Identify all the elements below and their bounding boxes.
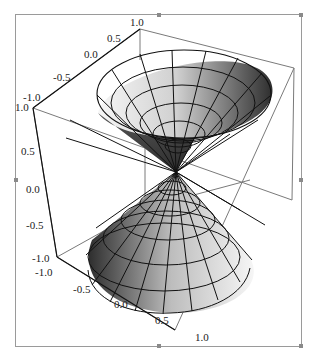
- svg-text:1.0: 1.0: [130, 16, 144, 28]
- svg-text:0.5: 0.5: [155, 314, 169, 326]
- lower-cone: [86, 172, 265, 314]
- svg-text:0.5: 0.5: [107, 32, 121, 44]
- svg-text:0.0: 0.0: [26, 183, 40, 195]
- upper-cone: [66, 50, 273, 172]
- svg-text:-0.5: -0.5: [26, 219, 44, 231]
- svg-text:-1.0: -1.0: [32, 252, 50, 264]
- svg-text:0.0: 0.0: [114, 298, 128, 310]
- plot-3d: -1.0 -0.5 0.0 0.5 1.0 1.0 0.5 0.0 -0.5 -…: [0, 0, 317, 356]
- svg-text:-0.5: -0.5: [53, 71, 71, 83]
- svg-text:-0.5: -0.5: [73, 283, 91, 295]
- svg-text:1.0: 1.0: [15, 101, 29, 113]
- svg-text:-1.0: -1.0: [35, 266, 53, 278]
- svg-text:0.5: 0.5: [21, 145, 35, 157]
- svg-text:1.0: 1.0: [195, 331, 209, 343]
- svg-text:0.0: 0.0: [84, 48, 98, 60]
